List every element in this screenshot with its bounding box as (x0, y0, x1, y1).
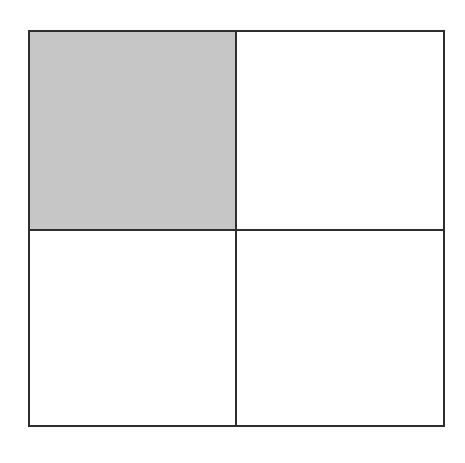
cell-top-right (237, 32, 443, 229)
cell-top-left-shaded (30, 32, 235, 229)
cell-bottom-left (30, 231, 235, 425)
horizontal-divider (30, 229, 443, 231)
quartered-square (28, 30, 445, 427)
cell-bottom-right (237, 231, 443, 425)
